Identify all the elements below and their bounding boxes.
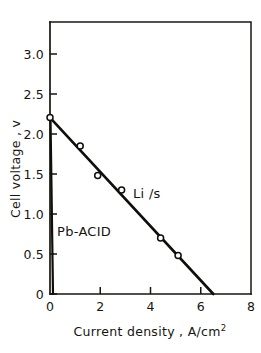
x-axis-title-superscript: 2 (221, 323, 227, 333)
data-point (95, 173, 101, 179)
series-label-pb-acid: Pb-ACID (57, 224, 111, 239)
series-label-li-s: Li /s (133, 186, 161, 201)
y-tick-label: 2.0 (24, 127, 44, 142)
x-tick-label: 6 (197, 299, 205, 314)
data-point (175, 253, 181, 259)
y-tick-label: 0.5 (24, 247, 44, 262)
y-tick-label: 3.0 (24, 47, 44, 62)
data-point (47, 115, 53, 121)
x-axis-title-main: Current density , A/cm (74, 324, 221, 339)
y-axis-tick-labels: 0 0.5 1.0 1.5 2.0 2.5 3.0 (24, 47, 44, 302)
x-tick-label: 0 (46, 299, 54, 314)
x-axis-ticks (100, 287, 201, 294)
y-tick-label: 1.5 (24, 167, 44, 182)
y-tick-label: 2.5 (24, 87, 44, 102)
x-axis-title: Current density , A/cm2 (74, 323, 227, 339)
data-point (119, 187, 125, 193)
x-axis-tick-labels: 0 2 4 6 8 (46, 299, 255, 314)
y-tick-label: 1.0 (24, 207, 44, 222)
chart-figure: 0 0.5 1.0 1.5 2.0 2.5 3.0 0 2 4 6 8 (0, 0, 261, 353)
x-tick-label: 2 (96, 299, 104, 314)
x-tick-label: 8 (247, 299, 255, 314)
y-tick-label: 0 (36, 287, 44, 302)
series-line-li-s (50, 118, 213, 294)
y-axis-title: Cell voltage , v (8, 120, 23, 218)
plot-frame (50, 22, 251, 294)
x-tick-label: 4 (146, 299, 154, 314)
data-point (77, 143, 83, 149)
cell-voltage-vs-current-density-chart: 0 0.5 1.0 1.5 2.0 2.5 3.0 0 2 4 6 8 (0, 0, 261, 353)
data-point (158, 235, 164, 241)
series-line-pb-acid (51, 119, 54, 295)
